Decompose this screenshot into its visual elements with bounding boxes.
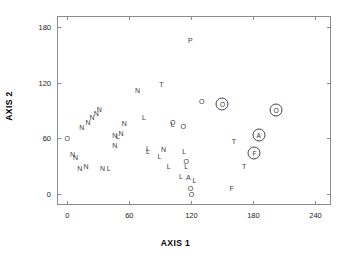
y-tick-label: 0 xyxy=(29,189,51,198)
x-tick-mark xyxy=(67,201,68,205)
x-tick-mark-top xyxy=(129,16,130,20)
x-tick-label: 0 xyxy=(65,211,69,220)
x-tick-mark xyxy=(129,201,130,205)
x-tick-mark xyxy=(315,201,316,205)
x-tick-label: 120 xyxy=(185,211,198,220)
x-tick-mark-top xyxy=(191,16,192,20)
x-tick-label: 240 xyxy=(309,211,322,220)
y-tick-mark xyxy=(57,27,61,28)
y-tick-label: 180 xyxy=(29,23,51,32)
y-tick-label: 120 xyxy=(29,78,51,87)
y-tick-mark xyxy=(57,138,61,139)
y-tick-mark-right xyxy=(327,83,331,84)
x-tick-mark-top xyxy=(67,16,68,20)
x-tick-mark-top xyxy=(315,16,316,20)
y-tick-mark-right xyxy=(327,138,331,139)
y-tick-label: 60 xyxy=(29,134,51,143)
y-tick-mark xyxy=(57,194,61,195)
y-tick-mark xyxy=(57,83,61,84)
y-tick-mark-right xyxy=(327,194,331,195)
x-tick-mark xyxy=(191,201,192,205)
scatter-plot-figure: PTNOOONNNLNNOLONANNLOTNLLNLFNNLOLNNNLLTL… xyxy=(0,0,351,263)
x-tick-mark xyxy=(253,201,254,205)
x-axis-title: AXIS 1 xyxy=(0,238,351,248)
y-tick-mark-right xyxy=(327,27,331,28)
x-tick-label: 60 xyxy=(125,211,133,220)
x-tick-label: 180 xyxy=(247,211,260,220)
plot-frame xyxy=(57,16,331,205)
x-tick-mark-top xyxy=(253,16,254,20)
y-axis-title: AXIS 2 xyxy=(4,71,14,141)
